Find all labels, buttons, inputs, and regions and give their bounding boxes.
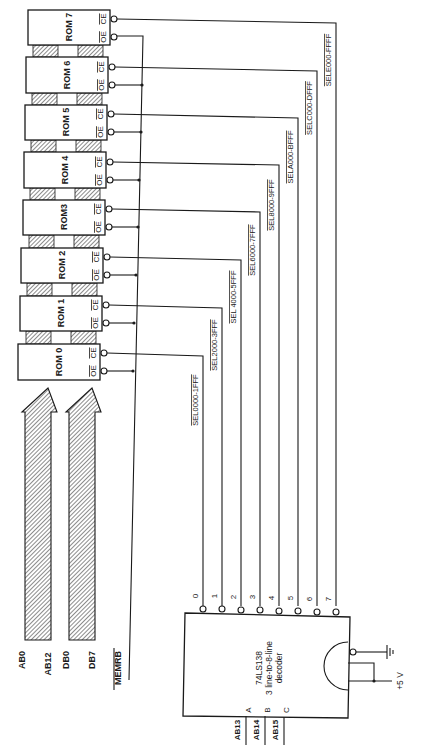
data-bus-arrow xyxy=(66,388,101,640)
decoder-out-7: 7 xyxy=(324,596,333,601)
decoder-description-2: decoder xyxy=(274,652,284,683)
rom-2-label: ROM 2 xyxy=(57,251,67,280)
bus-label-db0: DB0 xyxy=(61,651,71,669)
rom-3-oe-label: OE xyxy=(94,221,103,233)
input-label-ab14: AB14 xyxy=(252,719,261,740)
rom-5-ce-label: CE xyxy=(96,108,105,119)
input-label-ab13: AB13 xyxy=(233,719,242,740)
rom-4-label: ROM 4 xyxy=(60,156,70,185)
power-label: +5 V xyxy=(395,672,405,690)
oe-connections xyxy=(107,83,144,372)
select-label-2: SEL 4000-5FFF xyxy=(229,270,238,323)
decoder-out-0: 0 xyxy=(191,593,200,598)
rom-1: ROM 1 CE OE xyxy=(20,296,109,331)
select-label-5: SELA000-BFFF xyxy=(286,130,295,183)
decoder-out-2: 2 xyxy=(229,594,238,599)
input-label-ab15: AB15 xyxy=(271,719,280,740)
rom-0-oe-label: OE xyxy=(89,365,98,377)
rom-3-ce-label: CE xyxy=(94,203,103,214)
select-label-6: SELC000-DFFF xyxy=(305,81,314,135)
rom-7: ROM 7 CE OE xyxy=(28,10,117,45)
rom-5: ROM 5 CE OE xyxy=(25,105,114,140)
rom-6-oe-label: OE xyxy=(97,79,106,91)
decoder-out-3: 3 xyxy=(248,594,257,599)
decoder-pin-b: B xyxy=(263,707,272,712)
rom-0-ce-label: CE xyxy=(89,347,98,358)
rom-1-ce-label: CE xyxy=(91,299,100,310)
select-label-0: SEL0000-1FFF xyxy=(191,374,200,426)
decoder-out-1: 1 xyxy=(210,593,219,598)
select-label-4: SEL8000-9FFF xyxy=(267,179,276,231)
select-label-7: SELE000-FFFF xyxy=(324,33,333,86)
rom-7-label: ROM 7 xyxy=(64,13,74,42)
rom-3: ROM3 CE OE xyxy=(23,200,112,235)
decoder-out-5: 5 xyxy=(286,595,295,600)
bus-label-ab12: AB12 xyxy=(43,652,53,675)
address-bus-arrow xyxy=(22,388,57,640)
select-label-1: SEL2000-3FFF xyxy=(210,319,219,371)
rom-5-label: ROM 5 xyxy=(61,108,71,137)
bus-label-db7: DB7 xyxy=(87,651,97,669)
rom-4-oe-label: OE xyxy=(95,174,104,186)
rom-6-ce-label: CE xyxy=(97,61,106,72)
memory-decoder-schematic: AB0 AB12 DB0 DB7 MEMRB ROM 7 CE OE ROM 6… xyxy=(0,0,424,748)
rom-2-ce-label: CE xyxy=(92,251,101,262)
rom-1-oe-label: OE xyxy=(91,317,100,329)
bus-label-ab0: AB0 xyxy=(17,651,27,669)
rom-7-oe-label: OE xyxy=(99,31,108,43)
ground-icon xyxy=(387,645,393,659)
rom-6: ROM 6 CE OE xyxy=(26,57,115,93)
rom-1-label: ROM 1 xyxy=(56,299,66,328)
rom-7-ce-label: CE xyxy=(99,13,108,24)
rom-4-ce-label: CE xyxy=(95,156,104,167)
rom-0: ROM 0 CE OE xyxy=(18,344,107,380)
memrb-line xyxy=(113,36,143,680)
decoder-description-1: 3 line-to-8-line xyxy=(264,641,274,695)
rom-6-label: ROM 6 xyxy=(62,61,72,90)
rom-0-label: ROM 0 xyxy=(54,348,64,377)
decoder-pin-a: A xyxy=(244,707,253,713)
decoder-out-6: 6 xyxy=(305,596,314,601)
select-label-3: SEL6000-7FFF xyxy=(248,224,257,276)
decoder-out-4: 4 xyxy=(267,595,276,600)
rom-5-oe-label: OE xyxy=(96,126,105,138)
rom-4: ROM 4 CE OE xyxy=(24,152,113,188)
rom-3-label: ROM3 xyxy=(59,204,69,230)
decoder-part-number: 74LS138 xyxy=(254,651,264,685)
rom-2-oe-label: OE xyxy=(92,269,101,281)
decoder-pin-c: C xyxy=(282,707,291,713)
rom-2: ROM 2 CE OE xyxy=(21,248,110,283)
